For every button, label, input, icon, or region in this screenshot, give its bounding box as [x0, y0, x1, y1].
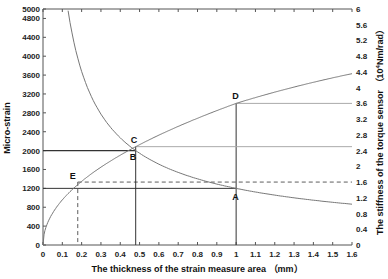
x-tick-label: 0.2: [76, 250, 88, 259]
point-label-b: B: [130, 152, 137, 162]
point-label-a: A: [232, 192, 239, 202]
x-tick-label: 0.5: [134, 250, 146, 259]
y2-tick-label: 4.8: [356, 52, 368, 61]
x-tick-label: 1.1: [250, 250, 262, 259]
point-label-e: E: [70, 171, 76, 181]
micro-strain-curve: [68, 11, 352, 205]
y-tick-label: 2800: [22, 109, 40, 118]
y2-tick-label: 5.2: [356, 36, 368, 45]
y-tick-label: 2000: [22, 147, 40, 156]
y2-tick-label: 0.8: [356, 210, 368, 219]
x-tick-label: 0.9: [211, 250, 223, 259]
y-tick-label: 2400: [22, 128, 40, 137]
y2-tick-label: 2.8: [356, 131, 368, 140]
x-tick-label: 0.8: [192, 250, 204, 259]
y2-tick-label: 2: [356, 162, 361, 171]
y2-tick-label: 0.4: [356, 225, 368, 234]
y2-tick-label: 4: [356, 84, 361, 93]
y2-tick-label: 1.6: [356, 178, 368, 187]
x-tick-label: 1.4: [308, 250, 320, 259]
y-tick-label: 4000: [22, 52, 40, 61]
y-tick-label: 1600: [22, 165, 40, 174]
y2-axis-title-main: The stiffness of the torque sensor （10: [375, 68, 385, 235]
x-tick-label: 0.7: [173, 250, 185, 259]
x-tick-label: 0: [41, 250, 46, 259]
x-tick-label: 1.2: [269, 250, 281, 259]
x-axis-title: The thickness of the strain measure area…: [91, 264, 302, 274]
y2-tick-label: 5.6: [356, 21, 368, 30]
dual-axis-line-chart: 00.10.20.30.40.50.60.70.80.911.11.21.31.…: [0, 0, 388, 279]
y2-tick-label: 3.2: [356, 115, 368, 124]
guide-lines: [43, 103, 352, 245]
y2-tick-label: 4.4: [356, 68, 368, 77]
x-tick-label: 0.1: [57, 250, 69, 259]
x-tick-label: 1.3: [289, 250, 301, 259]
x-tick-label: 0.4: [115, 250, 127, 259]
y-tick-label: 0: [36, 241, 41, 250]
y-tick-label: 5000: [22, 5, 40, 14]
y-tick-label: 800: [27, 203, 41, 212]
point-label-d: D: [232, 91, 239, 101]
y-tick-label: 3600: [22, 71, 40, 80]
x-tick-label: 1.5: [327, 250, 339, 259]
y2-tick-label: 2.4: [356, 147, 368, 156]
x-tick-label: 1: [234, 250, 239, 259]
stiffness-curve: [43, 74, 352, 245]
y2-axis-title-unit: Nm/rad）: [375, 25, 385, 65]
y-tick-label: 1200: [22, 184, 40, 193]
y-tick-label: 400: [27, 222, 41, 231]
y-tick-label: 4400: [22, 33, 40, 42]
point-label-c: C: [131, 135, 138, 145]
y2-tick-label: 1.2: [356, 194, 368, 203]
y-axis-title: Micro-strain: [2, 102, 12, 154]
y2-tick-label: 6: [356, 5, 361, 14]
curves: [43, 11, 352, 245]
x-tick-label: 1.6: [346, 250, 358, 259]
y-tick-label: 3200: [22, 90, 40, 99]
y2-tick-label: 3.6: [356, 99, 368, 108]
y2-axis-title: The stiffness of the torque sensor （104N…: [375, 25, 385, 235]
y-tick-label: 4800: [22, 14, 40, 23]
x-tick-label: 0.6: [153, 250, 165, 259]
y2-tick-label: 0: [356, 241, 361, 250]
x-tick-label: 0.3: [95, 250, 107, 259]
